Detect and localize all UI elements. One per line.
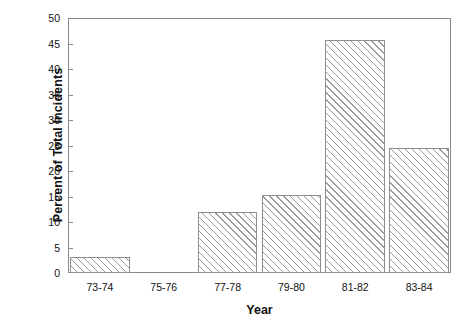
bar-83-84 [389, 148, 449, 273]
y-tick-mark [68, 44, 73, 45]
y-tick-label: 20 [28, 165, 60, 177]
y-tick-label: 25 [28, 140, 60, 152]
y-tick-mark [68, 95, 73, 96]
bar-chart: Percent of Total Incidents 5045403530252… [0, 0, 463, 327]
bar-73-74 [70, 257, 130, 273]
y-tick-label: 10 [28, 216, 60, 228]
y-tick-mark [68, 69, 73, 70]
y-tick-label: 45 [28, 38, 60, 50]
y-tick-label: 15 [28, 191, 60, 203]
x-tick-label: 75-76 [132, 281, 196, 293]
bar-81-82 [325, 40, 385, 273]
y-tick-mark [68, 120, 73, 121]
y-tick-label: 5 [28, 242, 60, 254]
y-tick-label: 50 [28, 12, 60, 24]
x-tick-label: 73-74 [68, 281, 132, 293]
y-tick-label: 35 [28, 89, 60, 101]
y-tick-label: 0 [28, 267, 60, 279]
y-tick-mark [68, 197, 73, 198]
y-tick-mark [68, 248, 73, 249]
y-tick-mark [68, 222, 73, 223]
bar-77-78 [198, 212, 258, 273]
y-tick-mark [68, 171, 73, 172]
y-tick-label: 40 [28, 63, 60, 75]
x-tick-label: 81-82 [323, 281, 387, 293]
y-tick-label: 30 [28, 114, 60, 126]
x-tick-label: 83-84 [387, 281, 451, 293]
bar-79-80 [262, 195, 322, 273]
x-tick-label: 77-78 [196, 281, 260, 293]
y-tick-mark [68, 146, 73, 147]
x-tick-label: 79-80 [260, 281, 324, 293]
x-axis-title: Year [68, 303, 451, 317]
